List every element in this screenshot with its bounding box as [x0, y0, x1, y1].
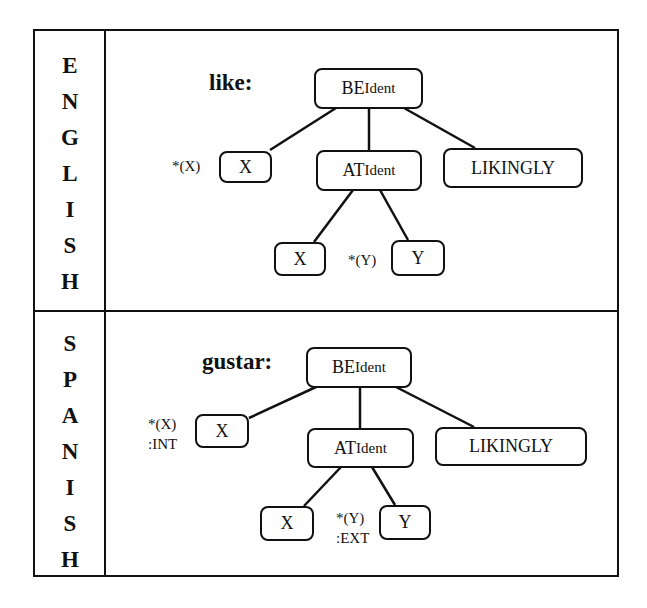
node-y-at: Y	[391, 240, 445, 276]
node-label: BE	[342, 78, 365, 99]
subject-annotation: *(X) :INT	[148, 414, 177, 454]
node-likingly: LIKINGLY	[435, 427, 587, 466]
letter: H	[61, 542, 79, 578]
node-y-at: Y	[379, 505, 431, 540]
node-be-ident: BEIdent	[314, 68, 423, 109]
object-case: :EXT	[336, 528, 369, 548]
node-x-subject: X	[219, 151, 272, 183]
letter: S	[64, 506, 77, 542]
subject-annotation: *(X)	[172, 156, 200, 176]
node-label: AT	[343, 160, 365, 181]
node-x-at: X	[274, 242, 326, 276]
node-subscript: Ident	[365, 162, 396, 179]
node-label: AT	[334, 438, 356, 459]
node-be-ident: BEIdent	[306, 347, 412, 388]
letter: L	[62, 156, 77, 192]
node-subscript: Ident	[355, 359, 386, 376]
node-at-ident: ATIdent	[316, 150, 422, 191]
language-label-spanish: S P A N I S H	[35, 326, 105, 578]
object-annotation: *(Y)	[348, 250, 376, 270]
letter: A	[62, 398, 79, 434]
object-annotation: *(Y) :EXT	[336, 508, 369, 548]
verb-label-like: like:	[209, 70, 252, 96]
letter: P	[63, 362, 77, 398]
letter: E	[62, 48, 77, 84]
subject-case: :INT	[148, 434, 177, 454]
verb-label-gustar: gustar:	[202, 349, 272, 375]
node-likingly: LIKINGLY	[443, 148, 583, 188]
letter: I	[66, 470, 75, 506]
letter: S	[64, 326, 77, 362]
object-star: *(Y)	[336, 508, 369, 528]
letter: I	[66, 192, 75, 228]
node-subscript: Ident	[365, 80, 396, 97]
node-at-ident: ATIdent	[307, 428, 414, 468]
language-label-english: E N G L I S H	[35, 48, 105, 300]
letter: N	[62, 434, 79, 470]
node-label: BE	[332, 357, 355, 378]
letter: S	[64, 228, 77, 264]
letter: G	[61, 120, 79, 156]
subject-star: *(X)	[148, 414, 177, 434]
letter: N	[62, 84, 79, 120]
letter: H	[61, 264, 79, 300]
node-subscript: Ident	[356, 440, 387, 457]
node-x-at: X	[260, 506, 314, 541]
node-x-subject: X	[195, 414, 249, 448]
